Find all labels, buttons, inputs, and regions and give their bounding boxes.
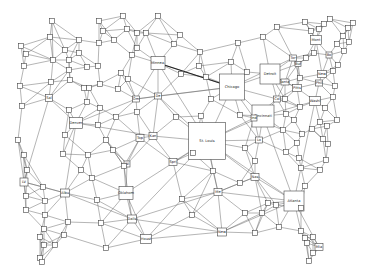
node-box: [85, 100, 90, 105]
node-box: [245, 70, 250, 75]
node-box: [298, 105, 303, 110]
node-box: [191, 151, 196, 156]
graph-node: [284, 112, 289, 117]
node-box: [97, 41, 102, 46]
node-label: Oklahom: [118, 191, 135, 195]
graph-node: [25, 168, 30, 173]
city-node-desm: De: [155, 93, 162, 99]
graph-node: [346, 26, 351, 31]
graph-edge: [127, 138, 140, 164]
node-box: [119, 71, 124, 76]
graph-edge: [68, 222, 101, 223]
node-box: [122, 164, 127, 169]
node-box: [77, 51, 82, 56]
city-node-boston: Bo: [326, 52, 332, 58]
graph-node: [324, 158, 329, 163]
node-box: [22, 153, 27, 158]
node-box: [331, 95, 336, 100]
graph-edge: [18, 106, 22, 140]
graph-node: [49, 80, 54, 85]
node-box: [49, 80, 54, 85]
graph-node: [325, 124, 330, 129]
node-box: [336, 63, 341, 68]
graph-edge: [140, 138, 173, 162]
graph-edge: [97, 200, 101, 223]
node-box: [310, 127, 315, 132]
node-box: [229, 60, 234, 65]
graph-edge: [65, 193, 97, 200]
graph-node: [209, 97, 214, 102]
graph-node: [303, 20, 308, 25]
city-node-detroit: Detroit: [260, 64, 280, 84]
graph-node: [48, 35, 53, 40]
node-box: [99, 221, 104, 226]
node-box: [40, 260, 45, 265]
node-label: Detroit: [264, 72, 277, 76]
graph-node: [172, 42, 177, 47]
graph-node: [292, 118, 297, 123]
graph-node: [199, 114, 204, 119]
graph-node: [342, 49, 347, 54]
graph-node: [61, 152, 66, 157]
graph-node: [97, 19, 102, 24]
graph-edge: [103, 29, 127, 31]
graph-node: [22, 64, 27, 69]
graph-edge: [20, 66, 24, 86]
node-box: [266, 201, 271, 206]
graph-edge: [26, 201, 45, 210]
node-box: [318, 120, 323, 125]
graph-node: [318, 120, 323, 125]
node-box: [198, 50, 203, 55]
graph-node: [351, 21, 356, 26]
graph-edge: [316, 40, 322, 74]
city-node-col: Col: [274, 96, 281, 102]
graph-node: [304, 56, 309, 61]
graph-node: [144, 31, 149, 36]
node-box: [101, 29, 106, 34]
node-box: [342, 49, 347, 54]
node-box: [42, 227, 47, 232]
graph-edge: [305, 22, 324, 24]
graph-edge: [22, 98, 49, 106]
graph-node: [300, 132, 305, 137]
node-box: [53, 243, 58, 248]
node-box: [98, 82, 103, 87]
city-node-sal: Sal: [46, 95, 53, 102]
graph-node: [331, 69, 336, 74]
node-box: [284, 150, 289, 155]
node-box: [299, 206, 304, 211]
graph-node: [20, 104, 25, 109]
graph-edge: [255, 227, 279, 233]
graph-node: [191, 151, 196, 156]
node-label: Ind: [251, 116, 257, 120]
graph-node: [50, 19, 55, 24]
node-box: [204, 75, 209, 80]
graph-node: [322, 22, 327, 27]
node-box: [307, 259, 312, 264]
node-box: [172, 42, 177, 47]
node-box: [253, 159, 258, 164]
graph-node: [174, 115, 179, 120]
graph-node: [298, 76, 303, 81]
node-label: Washi: [310, 99, 321, 103]
graph-node: [197, 64, 202, 69]
graph-node: [238, 181, 243, 186]
graph-edge: [100, 73, 121, 84]
graph-node: [22, 153, 27, 158]
graph-edge: [200, 43, 238, 52]
graph-node: [38, 235, 43, 240]
graph-node: [238, 113, 243, 118]
city-node-montreal: Mont: [311, 36, 322, 45]
graph-node: [135, 31, 140, 36]
graph-node: [77, 51, 82, 56]
node-label: Phil: [316, 81, 322, 85]
node-box: [174, 115, 179, 120]
node-box: [323, 106, 328, 111]
graph-edge: [106, 140, 124, 166]
node-box: [135, 31, 140, 36]
node-label: Denver: [69, 121, 83, 125]
graph-node: [274, 203, 279, 208]
graph-node: [260, 211, 265, 216]
graph-node: [19, 44, 24, 49]
node-box: [260, 211, 265, 216]
